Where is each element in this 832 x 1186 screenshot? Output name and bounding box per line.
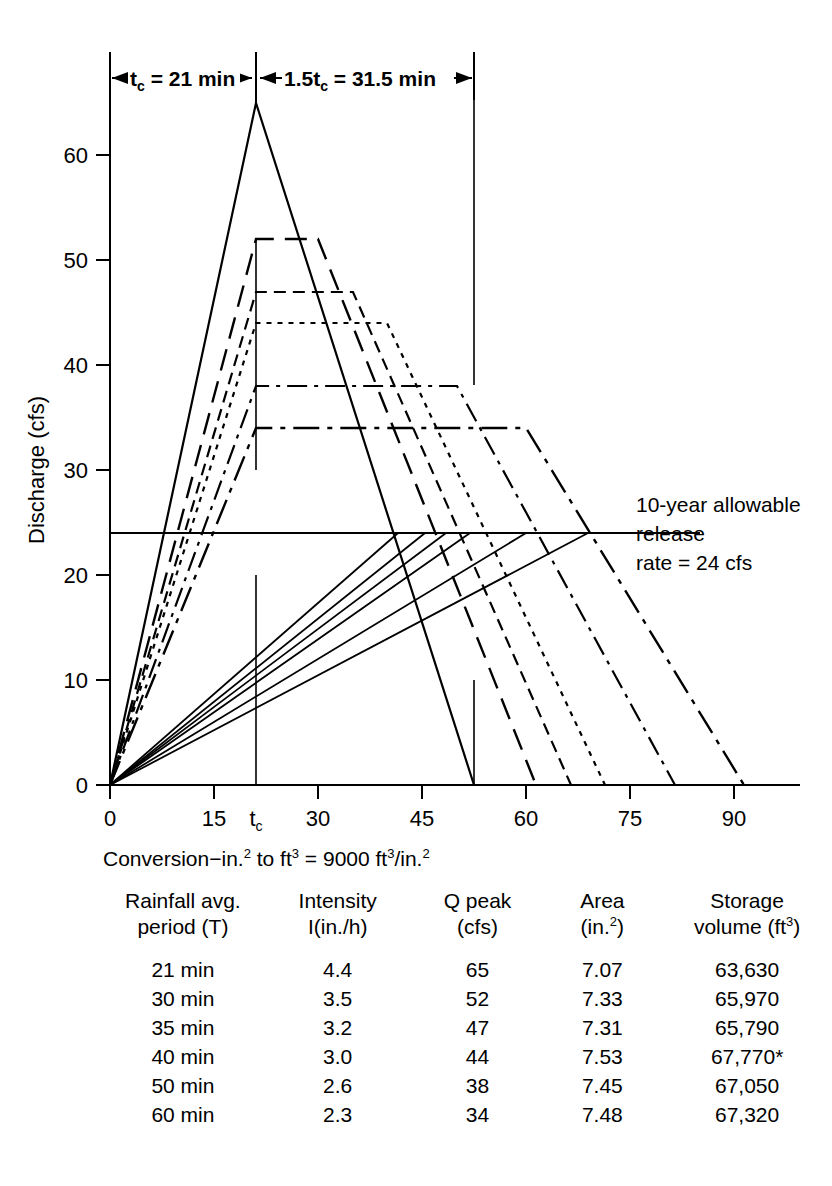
- cell-storage: 67,770*: [662, 1042, 832, 1071]
- conversion-sup-1: 2: [244, 846, 251, 861]
- header-area-unit: (in.: [581, 915, 610, 938]
- y-tick-labels: 0 10 20 30 40 50 60: [64, 143, 88, 798]
- release-line-50min: [110, 533, 526, 785]
- arrow-right-end: [456, 72, 472, 84]
- header-qpeak: Q peak (cfs): [413, 888, 543, 942]
- cell-qpeak: 44: [413, 1042, 543, 1071]
- table-body: 21 min 4.4 65 7.07 63,630 30 min 3.5 52 …: [103, 942, 832, 1129]
- header-storage-line1: Storage: [662, 888, 832, 914]
- cell-intensity: 2.3: [263, 1100, 413, 1129]
- x-tick-label-90: 90: [722, 806, 746, 831]
- cell-intensity: 3.2: [263, 1013, 413, 1042]
- y-tick-label-50: 50: [64, 248, 88, 273]
- header-rainfall-period: Rainfall avg. period (T): [103, 888, 263, 942]
- conversion-eq: = 9000 ft: [299, 847, 387, 870]
- annotation-line-2: release: [636, 522, 705, 545]
- x-tick-label-tc: tc: [249, 806, 262, 834]
- lower-text-block: Conversion−in.2 to ft3 = 9000 ft3/in.2 R…: [0, 846, 832, 1129]
- conversion-sup-2: 3: [292, 846, 299, 861]
- axes-group: [96, 100, 800, 799]
- y-tick-label-40: 40: [64, 353, 88, 378]
- cell-period: 35 min: [103, 1013, 263, 1042]
- release-line-35min: [110, 533, 446, 785]
- cell-storage: 65,790: [662, 1013, 832, 1042]
- table-row: 30 min 3.5 52 7.33 65,970: [103, 984, 832, 1013]
- y-tick-label-60: 60: [64, 143, 88, 168]
- header-intensity-line1: Intensity: [263, 888, 413, 914]
- cell-area: 7.33: [542, 984, 662, 1013]
- cell-qpeak: 65: [413, 942, 543, 984]
- cell-area: 7.07: [542, 942, 662, 984]
- conversion-sup-4: 2: [422, 846, 429, 861]
- header-storage-line2: volume (ft3): [662, 914, 832, 940]
- conversion-prefix: Conversion−in.: [103, 847, 244, 870]
- annotation-line-1: 10-year allowable: [636, 493, 801, 516]
- table-row: 60 min 2.3 34 7.48 67,320: [103, 1100, 832, 1129]
- y-tick-label-20: 20: [64, 563, 88, 588]
- x-tick-label-45: 45: [410, 806, 434, 831]
- header-intensity: Intensity I(in./h): [263, 888, 413, 942]
- x-tick-label-60: 60: [514, 806, 538, 831]
- cell-intensity: 2.6: [263, 1071, 413, 1100]
- cell-storage: 67,050: [662, 1071, 832, 1100]
- storage-volume-table: Rainfall avg. period (T) Intensity I(in.…: [103, 888, 832, 1129]
- cell-qpeak: 38: [413, 1071, 543, 1100]
- x-tick-labels: 0 15 30 45 60 75 90 tc: [104, 806, 746, 834]
- header-area-close: ): [617, 915, 624, 938]
- cell-intensity: 3.0: [263, 1042, 413, 1071]
- table-row: 35 min 3.2 47 7.31 65,790: [103, 1013, 832, 1042]
- header-area: Area (in.2): [542, 888, 662, 942]
- cell-qpeak: 52: [413, 984, 543, 1013]
- cell-area: 7.45: [542, 1071, 662, 1100]
- cell-area: 7.48: [542, 1100, 662, 1129]
- header-qpeak-line2: (cfs): [413, 914, 543, 940]
- cell-period: 50 min: [103, 1071, 263, 1100]
- header-storage-close: ): [793, 915, 800, 938]
- hydrograph-40min: [110, 323, 605, 785]
- cell-area: 7.53: [542, 1042, 662, 1071]
- header-storage: Storage volume (ft3): [662, 888, 832, 942]
- cell-storage: 67,320: [662, 1100, 832, 1129]
- arrow-left-start: [112, 72, 128, 84]
- table-row: 40 min 3.0 44 7.53 67,770*: [103, 1042, 832, 1071]
- table-header-row: Rainfall avg. period (T) Intensity I(in.…: [103, 888, 832, 942]
- cell-qpeak: 34: [413, 1100, 543, 1129]
- y-axis-title: Discharge (cfs): [24, 396, 49, 544]
- release-line-21min: [110, 533, 398, 785]
- hydrograph-21min: [110, 103, 474, 785]
- bracket-right-label: 1.5tc = 31.5 min: [284, 67, 436, 94]
- y-tick-label-0: 0: [76, 773, 88, 798]
- figure-page: tc = 21 min 1.5tc = 31.5 min 0: [0, 0, 832, 1186]
- cell-qpeak: 47: [413, 1013, 543, 1042]
- conversion-note: Conversion−in.2 to ft3 = 9000 ft3/in.2: [103, 846, 832, 872]
- table-row: 21 min 4.4 65 7.07 63,630: [103, 942, 832, 984]
- bracket-left-label: tc = 21 min: [130, 67, 235, 94]
- allowable-release-annotation: 10-year allowable release rate = 24 cfs: [636, 493, 801, 574]
- hydrograph-60min: [110, 428, 744, 785]
- release-line-40min: [110, 533, 470, 785]
- release-line-30min: [110, 533, 425, 785]
- x-tick-label-75: 75: [618, 806, 642, 831]
- x-tick-label-30: 30: [306, 806, 330, 831]
- cell-period: 60 min: [103, 1100, 263, 1129]
- hydrograph-chart: tc = 21 min 1.5tc = 31.5 min 0: [0, 0, 832, 850]
- conversion-mid: to ft: [251, 847, 292, 870]
- x-tick-label-0: 0: [104, 806, 116, 831]
- cell-storage: 65,970: [662, 984, 832, 1013]
- arrow-right-start: [260, 72, 276, 84]
- annotation-line-3: rate = 24 cfs: [636, 551, 752, 574]
- header-qpeak-line1: Q peak: [413, 888, 543, 914]
- cell-intensity: 4.4: [263, 942, 413, 984]
- y-tick-label-30: 30: [64, 458, 88, 483]
- header-area-sup: 2: [610, 914, 617, 929]
- table-row: 50 min 2.6 38 7.45 67,050: [103, 1071, 832, 1100]
- header-rainfall-period-line1: Rainfall avg.: [103, 888, 263, 914]
- cell-period: 21 min: [103, 942, 263, 984]
- x-tick-label-15: 15: [202, 806, 226, 831]
- cell-intensity: 3.5: [263, 984, 413, 1013]
- header-rainfall-period-line2: period (T): [103, 914, 263, 940]
- header-area-line2: (in.2): [542, 914, 662, 940]
- header-storage-unit: volume (ft: [694, 915, 786, 938]
- cell-period: 40 min: [103, 1042, 263, 1071]
- y-tick-label-10: 10: [64, 668, 88, 693]
